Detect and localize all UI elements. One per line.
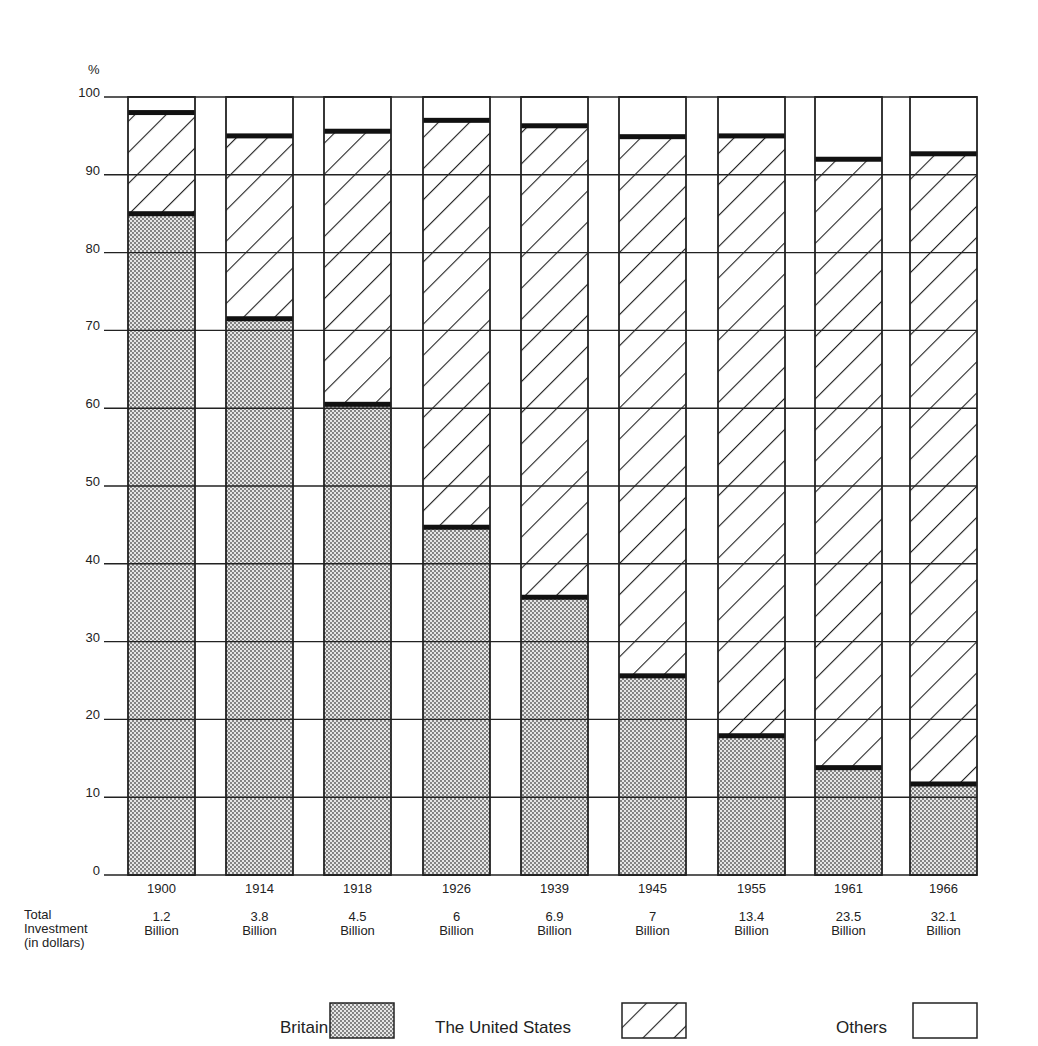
total-investment-value: 4.5Billion xyxy=(323,910,393,938)
boundary-britain-top xyxy=(718,733,785,738)
total-investment-label: Total Investment (in dollars) xyxy=(24,908,88,950)
bar-1955 xyxy=(718,97,785,875)
segment-others xyxy=(521,97,588,126)
x-tick-label: 1955 xyxy=(722,882,782,896)
segment-others xyxy=(718,97,785,136)
boundary-us-top xyxy=(910,151,977,156)
legend-swatch-others xyxy=(913,1003,977,1038)
y-tick-label: 90 xyxy=(60,163,100,178)
boundary-us-top xyxy=(423,118,490,123)
segment-us xyxy=(718,136,785,736)
boundary-us-top xyxy=(619,134,686,139)
boundary-britain-top xyxy=(815,765,882,770)
boundary-us-top xyxy=(815,157,882,162)
boundary-us-top xyxy=(718,133,785,138)
segment-others xyxy=(226,97,293,136)
total-investment-value: 13.4Billion xyxy=(717,910,787,938)
y-tick-label: 20 xyxy=(60,707,100,722)
x-tick-label: 1961 xyxy=(819,882,879,896)
boundary-us-top xyxy=(128,110,195,115)
segment-britain xyxy=(815,768,882,875)
segment-us xyxy=(619,137,686,676)
total-investment-value: 6Billion xyxy=(422,910,492,938)
segment-us xyxy=(226,136,293,319)
bar-1945 xyxy=(619,97,686,875)
total-investment-value: 32.1Billion xyxy=(909,910,979,938)
segment-others xyxy=(619,97,686,137)
legend-label-others: Others xyxy=(836,1018,887,1038)
bar-1961 xyxy=(815,97,882,875)
total-label-line3: (in dollars) xyxy=(24,936,88,950)
y-tick-label: 100 xyxy=(60,85,100,100)
segment-us xyxy=(128,113,195,214)
segment-us xyxy=(324,131,391,404)
segment-britain xyxy=(718,736,785,875)
x-tick-label: 1926 xyxy=(427,882,487,896)
x-tick-label: 1945 xyxy=(623,882,683,896)
total-investment-value: 6.9Billion xyxy=(520,910,590,938)
bar-1939 xyxy=(521,97,588,875)
boundary-britain-top xyxy=(619,673,686,678)
total-investment-value: 1.2Billion xyxy=(127,910,197,938)
segment-others xyxy=(910,97,977,154)
x-tick-label: 1939 xyxy=(525,882,585,896)
boundary-britain-top xyxy=(226,316,293,321)
segment-us xyxy=(521,126,588,597)
boundary-us-top xyxy=(521,123,588,128)
legend-swatch-britain xyxy=(330,1003,394,1038)
bar-1926 xyxy=(423,97,490,875)
total-investment-value: 23.5Billion xyxy=(814,910,884,938)
legend-label-us: The United States xyxy=(435,1018,571,1038)
y-tick-label: 60 xyxy=(60,396,100,411)
y-tick-label: 80 xyxy=(60,241,100,256)
segment-britain xyxy=(324,404,391,875)
segment-others xyxy=(423,97,490,120)
boundary-britain-top xyxy=(910,781,977,786)
segment-us xyxy=(423,120,490,527)
y-tick-label: 10 xyxy=(60,785,100,800)
segment-britain xyxy=(619,676,686,875)
y-tick-label: 70 xyxy=(60,318,100,333)
total-label-line1: Total xyxy=(24,908,88,922)
boundary-us-top xyxy=(226,133,293,138)
total-label-line2: Investment xyxy=(24,922,88,936)
boundary-britain-top xyxy=(128,211,195,216)
bar-1914 xyxy=(226,97,293,875)
segment-britain xyxy=(226,319,293,875)
bar-1918 xyxy=(324,97,391,875)
y-tick-label: 30 xyxy=(60,630,100,645)
y-axis-unit: % xyxy=(88,63,100,77)
bars xyxy=(128,97,977,875)
x-tick-label: 1900 xyxy=(132,882,192,896)
boundary-britain-top xyxy=(521,595,588,600)
legend-swatch-us xyxy=(622,1003,686,1038)
total-investment-value: 7Billion xyxy=(618,910,688,938)
segment-others xyxy=(324,97,391,131)
segment-britain xyxy=(128,214,195,875)
x-tick-label: 1966 xyxy=(914,882,974,896)
segment-britain xyxy=(521,597,588,875)
total-investment-value: 3.8Billion xyxy=(225,910,295,938)
bar-1966 xyxy=(910,97,977,875)
y-tick-label: 50 xyxy=(60,474,100,489)
segment-others xyxy=(815,97,882,159)
y-tick-label: 40 xyxy=(60,552,100,567)
segment-britain xyxy=(423,527,490,875)
boundary-britain-top xyxy=(324,402,391,407)
segment-us xyxy=(910,154,977,784)
bar-1900 xyxy=(128,97,195,875)
legend-label-britain: Britain xyxy=(280,1018,328,1038)
y-tick-label: 0 xyxy=(60,863,100,878)
boundary-us-top xyxy=(324,129,391,134)
x-tick-label: 1914 xyxy=(230,882,290,896)
segment-us xyxy=(815,159,882,767)
x-tick-label: 1918 xyxy=(328,882,388,896)
boundary-britain-top xyxy=(423,525,490,530)
